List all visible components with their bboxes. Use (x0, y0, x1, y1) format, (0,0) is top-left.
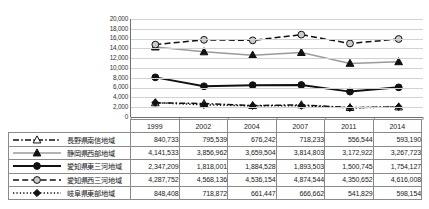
table-body: 長野県南信地域840,733795,539676,242718,233556,5… (9, 133, 422, 200)
column-header-year: 2004 (228, 120, 277, 133)
y-tick-label: 8,000 (113, 75, 128, 81)
gridline (131, 39, 423, 40)
table-cell-value: 4,568,136 (179, 173, 228, 186)
series-3 (152, 31, 402, 48)
legend-row-4[interactable]: 岐阜県東部地域 (9, 186, 131, 199)
table-row: 長野県南信地域840,733795,539676,242718,233556,5… (9, 133, 422, 146)
table-cell-value: 3,267,723 (373, 146, 422, 159)
table-cell-value: 1,500,745 (325, 160, 374, 173)
gridline (131, 19, 423, 20)
legend-label: 愛知県東三河地域 (63, 161, 121, 171)
legend-row-2[interactable]: 愛知県東三河地域 (9, 160, 131, 173)
series-line (155, 47, 398, 63)
plot-area (130, 19, 423, 117)
column-header-year: 2007 (276, 120, 325, 133)
table-cell-value: 3,172,922 (325, 146, 374, 159)
table-cell-value: 2,347,209 (131, 160, 180, 173)
legend-row-3[interactable]: 愛知県西三河地域 (9, 173, 131, 186)
legend-swatch-filled-triangle (11, 147, 63, 159)
series-line (155, 35, 398, 45)
table-cell-value: 718,233 (276, 133, 325, 146)
table-cell-value: 840,733 (131, 133, 180, 146)
table-cell-value: 4,350,652 (325, 173, 374, 186)
data-point-filled-circle (347, 88, 354, 95)
y-tick-label: 20,000 (110, 16, 128, 22)
legend-label: 長野県南信地域 (63, 135, 115, 145)
table-cell-value: 795,539 (179, 133, 228, 146)
data-point-filled-circle (201, 83, 208, 90)
table-cell-value: 1,893,503 (276, 160, 325, 173)
table-cell-value: 556,544 (325, 133, 374, 146)
table-corner-blank (9, 120, 131, 133)
column-header-year: 1999 (131, 120, 180, 133)
y-tick-label: 2,000 (113, 104, 128, 110)
table-cell-value: 3,814,803 (276, 146, 325, 159)
series-0 (151, 99, 402, 111)
gridline (131, 68, 423, 69)
table-cell-value: 4,616,008 (373, 173, 422, 186)
chart-plot-region: 20,00018,00016,00014,00012,00010,0008,00… (0, 0, 429, 130)
y-tick-label: 12,000 (110, 55, 128, 61)
y-tick-label: 16,000 (110, 35, 128, 41)
y-tick-label: 18,000 (110, 26, 128, 32)
table-cell-value: 1,818,001 (179, 160, 228, 173)
column-header-year: 2014 (373, 120, 422, 133)
x-axis-line (131, 117, 423, 118)
table-cell-value: 4,874,544 (276, 173, 325, 186)
table-cell-value: 1,754,127 (373, 160, 422, 173)
table-cell-value: 1,884,528 (228, 160, 277, 173)
column-header-year: 2011 (325, 120, 374, 133)
legend-swatch-open-triangle (11, 134, 63, 146)
y-tick-label: 6,000 (113, 84, 128, 90)
table-cell-value: 3,659,504 (228, 146, 277, 159)
legend-row-0[interactable]: 長野県南信地域 (9, 133, 131, 146)
data-point-filled-diamond (33, 190, 40, 197)
table-cell-value: 4,287,752 (131, 173, 180, 186)
table-cell-value: 666,662 (276, 186, 325, 199)
y-axis-tick-labels: 20,00018,00016,00014,00012,00010,0008,00… (96, 14, 128, 122)
legend-label: 愛知県西三河地域 (63, 175, 121, 185)
legend-swatch-filled-circle (11, 160, 63, 172)
table-row: 愛知県東三河地域2,347,2091,818,0011,884,5281,893… (9, 160, 422, 173)
table-cell-value: 676,242 (228, 133, 277, 146)
data-point-open-circle (201, 36, 208, 43)
series-line (155, 77, 398, 91)
gridline (131, 29, 423, 30)
gridline (131, 48, 423, 49)
column-header-year: 2002 (179, 120, 228, 133)
legend-swatch-filled-diamond (11, 187, 63, 199)
table-cell-value: 4,536,154 (228, 173, 277, 186)
data-point-open-circle (347, 40, 354, 47)
table-row: 岐阜県東部地域848,408718,872661,447666,662541,8… (9, 186, 422, 199)
table-cell-value: 4,141,533 (131, 146, 180, 159)
table-header-row: 1999 2002 2004 2007 2011 2014 (9, 120, 422, 133)
y-tick-label: 10,000 (110, 65, 128, 71)
legend-label: 静岡県西部地域 (63, 148, 115, 158)
y-tick-label: 4,000 (113, 94, 128, 100)
table-cell-value: 598,154 (373, 186, 422, 199)
gridline (131, 97, 423, 98)
series-1 (151, 43, 402, 66)
y-tick-label: 14,000 (110, 45, 128, 51)
gridline (131, 78, 423, 79)
legend-label: 岐阜県東部地域 (63, 188, 115, 198)
legend-row-1[interactable]: 静岡県西部地域 (9, 146, 131, 159)
table-cell-value: 593,190 (373, 133, 422, 146)
legend-swatch-open-circle (11, 174, 63, 186)
data-point-open-circle (152, 41, 159, 48)
data-table: 1999 2002 2004 2007 2011 2014 長野県南信地域840… (8, 119, 422, 200)
gridline (131, 88, 423, 89)
gridline (131, 107, 423, 108)
data-point-open-circle (298, 31, 305, 38)
data-point-open-circle (34, 176, 41, 183)
table-cell-value: 3,856,962 (179, 146, 228, 159)
table-row: 静岡県西部地域4,141,5333,856,9623,659,5043,814,… (9, 146, 422, 159)
table-cell-value: 848,408 (131, 186, 180, 199)
table-cell-value: 718,872 (179, 186, 228, 199)
gridline (131, 58, 423, 59)
data-point-filled-circle (34, 163, 41, 170)
table-row: 愛知県西三河地域4,287,7524,568,1364,536,1544,874… (9, 173, 422, 186)
chart-figure: 20,00018,00016,00014,00012,00010,0008,00… (0, 0, 429, 209)
table-cell-value: 661,447 (228, 186, 277, 199)
table-cell-value: 541,829 (325, 186, 374, 199)
